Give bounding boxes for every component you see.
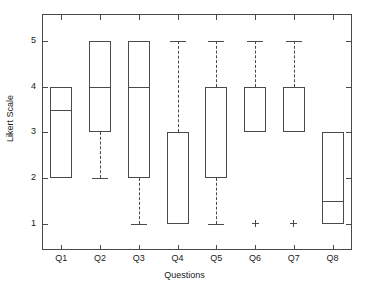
median-line: [322, 201, 344, 202]
x-axis-tick-label: Q6: [240, 254, 270, 263]
outlier-plus-icon: [252, 220, 259, 227]
x-axis-tick-label: Q1: [46, 254, 76, 263]
whisker-cap-upper: [170, 41, 186, 42]
y-axis-tick-label: 5: [16, 36, 36, 45]
y-axis-tick: [346, 178, 351, 179]
whisker-lower: [139, 178, 140, 224]
box-q5: [205, 87, 227, 178]
x-axis-tick-label: Q3: [124, 254, 154, 263]
box-q7: [283, 87, 305, 133]
x-axis-tick: [61, 245, 62, 250]
y-axis-tick: [43, 224, 48, 225]
box-q6: [244, 87, 266, 133]
box-q8: [322, 132, 344, 223]
x-axis-tick: [333, 15, 334, 20]
box-q4: [167, 132, 189, 223]
x-axis-tick: [100, 245, 101, 250]
x-axis-tick: [178, 245, 179, 250]
y-axis-tick-label: 1: [16, 219, 36, 228]
y-axis-tick: [43, 178, 48, 179]
whisker-lower: [216, 178, 217, 224]
y-axis-tick: [43, 87, 48, 88]
median-line: [128, 87, 150, 88]
x-axis-tick: [61, 15, 62, 20]
y-axis-tick-label: 4: [16, 82, 36, 91]
y-axis-tick: [43, 41, 48, 42]
whisker-upper: [294, 41, 295, 87]
y-axis-tick: [346, 132, 351, 133]
x-axis-tick: [139, 245, 140, 250]
x-axis-tick: [333, 245, 334, 250]
x-axis-tick: [139, 15, 140, 20]
x-axis-tick: [216, 245, 217, 250]
x-axis-tick: [294, 15, 295, 20]
whisker-upper: [178, 41, 179, 132]
x-axis-tick-label: Q8: [318, 254, 348, 263]
whisker-cap-upper: [286, 41, 302, 42]
whisker-cap-lower: [131, 224, 147, 225]
x-axis-tick: [255, 15, 256, 20]
x-axis-tick: [255, 245, 256, 250]
box-q3: [128, 41, 150, 178]
x-axis-tick-label: Q2: [85, 254, 115, 263]
x-axis-tick: [216, 15, 217, 20]
median-line: [89, 87, 111, 88]
x-axis-tick-label: Q5: [201, 254, 231, 263]
y-axis-tick: [43, 132, 48, 133]
y-axis-tick: [346, 87, 351, 88]
chart-screenshot: 12345Q1Q2Q3Q4Q5Q6Q7Q8 Likert Scale Quest…: [0, 0, 369, 292]
y-axis-title: Likert Scale: [6, 84, 15, 154]
whisker-cap-lower: [92, 178, 108, 179]
median-line: [50, 110, 72, 111]
x-axis-tick: [100, 15, 101, 20]
x-axis-tick: [178, 15, 179, 20]
x-axis-tick-label: Q4: [163, 254, 193, 263]
whisker-lower: [100, 132, 101, 178]
x-axis-title: Questions: [0, 271, 369, 280]
x-axis-tick: [294, 245, 295, 250]
y-axis-tick-label: 2: [16, 173, 36, 182]
whisker-cap-lower: [208, 224, 224, 225]
box-q1: [50, 87, 72, 178]
y-axis-tick-label: 3: [16, 127, 36, 136]
whisker-cap-upper: [247, 41, 263, 42]
whisker-upper: [255, 41, 256, 87]
whisker-cap-upper: [208, 41, 224, 42]
y-axis-tick: [346, 224, 351, 225]
whisker-upper: [216, 41, 217, 87]
outlier-plus-icon: [290, 220, 297, 227]
x-axis-tick-label: Q7: [279, 254, 309, 263]
y-axis-tick: [346, 41, 351, 42]
